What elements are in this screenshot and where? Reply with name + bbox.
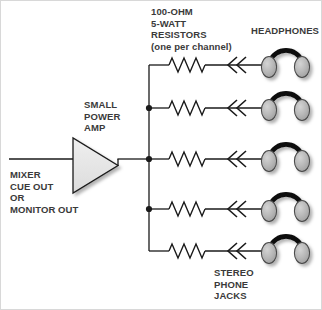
power-amp-symbol: [73, 138, 118, 193]
headphones-icon-1: [261, 50, 309, 77]
channel-row-5: [149, 236, 310, 263]
source-label: MIXER CUE OUT OR MONITOR OUT: [10, 169, 78, 215]
channel-row-3: [146, 144, 310, 171]
amp-output-wire: [117, 159, 149, 166]
resistor-symbol-4: [169, 202, 205, 216]
channel-row-1: [149, 50, 310, 77]
resistor-symbol-3: [169, 152, 205, 166]
amp-label: SMALL POWER AMP: [84, 99, 120, 134]
headphones-icon-2: [261, 93, 309, 120]
channel-row-2: [146, 93, 310, 120]
headphones-icon-3: [261, 144, 309, 171]
junction-dot-2: [146, 105, 152, 111]
resistor-symbol-2: [169, 101, 205, 115]
resistors-label: 100-OHM 5-WATT RESISTORS (one per channe…: [151, 6, 232, 52]
junction-dot-3: [146, 156, 152, 162]
headphones-icon-4: [261, 194, 309, 221]
resistor-symbol-1: [169, 58, 205, 72]
resistor-symbol-5: [169, 244, 205, 258]
jacks-label: STEREO PHONE JACKS: [214, 267, 254, 302]
diagram-canvas: 100-OHM 5-WATT RESISTORS (one per channe…: [0, 0, 322, 310]
junction-dot-4: [146, 206, 152, 212]
headphones-label: HEADPHONES: [251, 25, 319, 37]
channel-row-4: [146, 194, 310, 221]
headphones-icon-5: [261, 236, 309, 263]
